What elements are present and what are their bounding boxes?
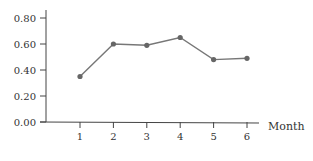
data-point-marker bbox=[211, 57, 216, 62]
data-point-marker bbox=[244, 56, 249, 61]
data-point-marker bbox=[111, 41, 116, 46]
x-axis: 123456 bbox=[40, 122, 259, 142]
data-point-marker bbox=[77, 74, 82, 79]
x-tick-label: 2 bbox=[110, 131, 116, 142]
y-tick-label: 0.60 bbox=[14, 39, 36, 50]
x-tick-label: 3 bbox=[144, 131, 150, 142]
x-axis-title: Month bbox=[268, 120, 304, 133]
x-tick-label: 6 bbox=[244, 131, 250, 142]
x-tick-label: 4 bbox=[177, 131, 183, 142]
y-tick-label: 0.20 bbox=[14, 91, 36, 102]
data-series bbox=[77, 35, 249, 79]
data-point-marker bbox=[144, 43, 149, 48]
y-tick-label: 0.00 bbox=[14, 117, 36, 128]
line-chart: 0.000.200.400.600.80 123456 Month bbox=[0, 0, 313, 161]
series-line bbox=[80, 38, 247, 77]
y-tick-label: 0.80 bbox=[14, 13, 36, 24]
data-point-marker bbox=[178, 35, 183, 40]
y-axis: 0.000.200.400.600.80 bbox=[14, 10, 46, 128]
x-tick-label: 5 bbox=[210, 131, 216, 142]
y-tick-label: 0.40 bbox=[14, 65, 36, 76]
x-tick-label: 1 bbox=[77, 131, 83, 142]
